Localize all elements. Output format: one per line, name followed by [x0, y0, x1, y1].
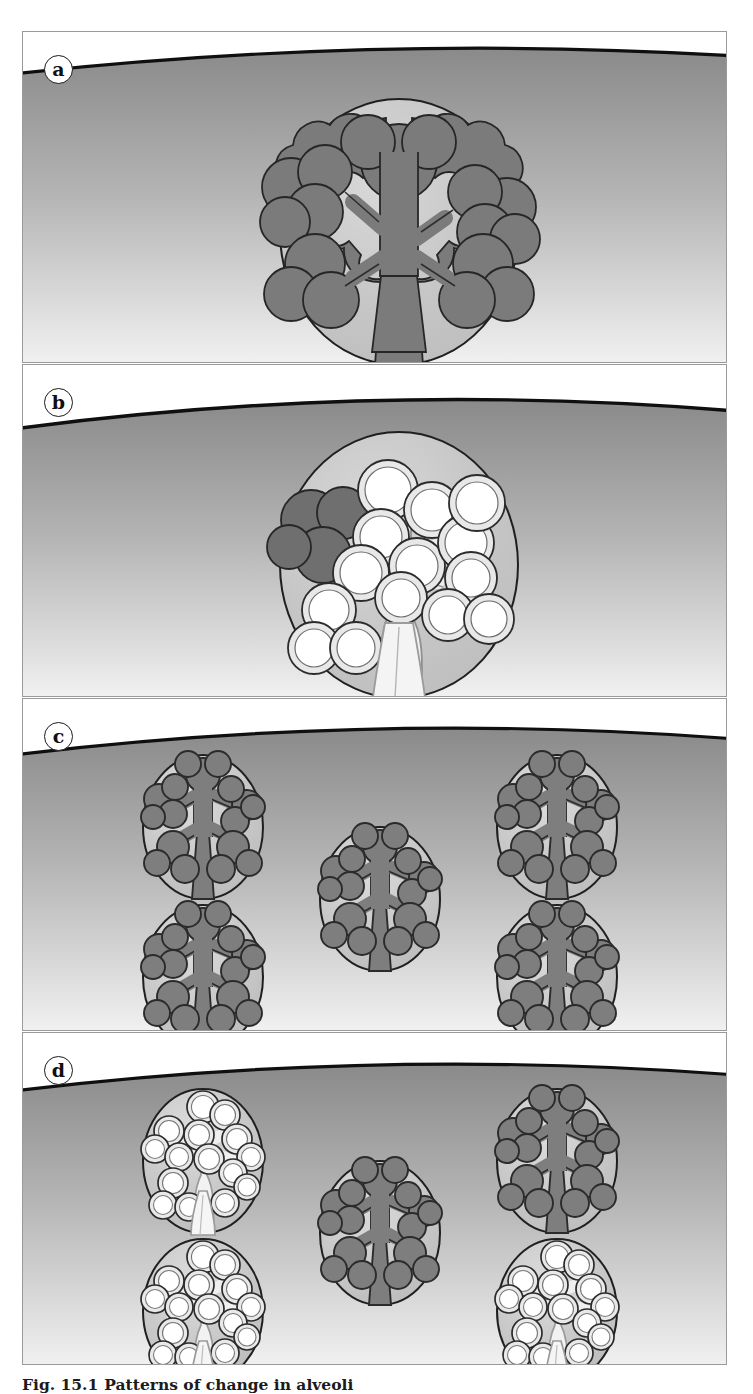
panel-label-a: a: [44, 55, 73, 84]
panel-a: [22, 31, 727, 363]
panel-d-illustration: [23, 1033, 726, 1364]
panel-a-illustration: [23, 32, 726, 362]
panel-c-illustration: [23, 699, 726, 1030]
figure-caption-text: Patterns of change in alveoli: [104, 1375, 353, 1394]
figure-caption-number: Fig. 15.1: [22, 1375, 98, 1394]
panel-label-c: c: [44, 722, 73, 751]
panel-b: [22, 364, 727, 697]
panel-label-d: d: [44, 1056, 73, 1085]
panel-label-b: b: [44, 388, 73, 417]
panel-c: [22, 698, 727, 1031]
panel-d: [22, 1032, 727, 1365]
panel-b-illustration: [23, 365, 726, 696]
figure-caption: Fig. 15.1Patterns of change in alveoli: [22, 1375, 732, 1394]
